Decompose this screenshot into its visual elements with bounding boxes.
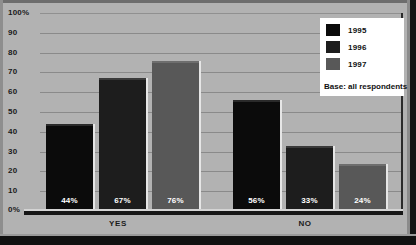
frame-top-border	[0, 0, 416, 3]
bar-yes-1997: 76%	[152, 61, 199, 212]
legend-swatch-1995	[326, 24, 340, 36]
legend-label-1995: 1995	[348, 26, 367, 35]
bar-cap	[233, 100, 280, 102]
bar-value-label: 76%	[152, 196, 199, 205]
category-label-yes: YES	[58, 219, 178, 228]
bar-right-highlight	[93, 124, 95, 211]
bar-value-label: 56%	[233, 196, 280, 205]
bar-cap	[286, 146, 333, 148]
bar-right-highlight	[280, 100, 282, 211]
frame-bottom-border	[0, 236, 416, 245]
category-label-no: NO	[245, 219, 365, 228]
legend-base-note: Base: all respondents	[324, 82, 407, 91]
bar-value-label: 67%	[99, 196, 146, 205]
y-tick-10: 10	[8, 187, 40, 195]
bar-value-label: 24%	[339, 196, 386, 205]
bar-right-highlight	[146, 78, 148, 211]
y-tick-30: 30	[8, 148, 40, 156]
y-tick-80: 80	[8, 49, 40, 57]
chart-screenshot: 44% 67% 76% 56% 33% 24%	[0, 0, 416, 245]
bar-right-highlight	[333, 146, 335, 211]
bar-yes-1995: 44%	[46, 124, 93, 211]
legend: 1995 1996 1997 Base: all respondents	[320, 18, 404, 96]
legend-swatch-1996	[326, 41, 340, 53]
legend-label-1996: 1996	[348, 43, 367, 52]
y-tick-40: 40	[8, 128, 40, 136]
bar-no-1997: 24%	[339, 164, 386, 212]
frame-right-border	[410, 0, 416, 245]
bar-cap	[46, 124, 93, 126]
bar-cap	[339, 164, 386, 166]
bar-right-highlight	[386, 164, 388, 212]
y-tick-90: 90	[8, 29, 40, 37]
legend-swatch-1997	[326, 58, 340, 70]
legend-label-1997: 1997	[348, 60, 367, 69]
bar-no-1996: 33%	[286, 146, 333, 211]
y-tick-60: 60	[8, 88, 40, 96]
y-tick-20: 20	[8, 167, 40, 175]
y-tick-50: 50	[8, 108, 40, 116]
gridline-50	[40, 112, 402, 113]
bar-no-1995: 56%	[233, 100, 280, 211]
bar-cap	[152, 61, 199, 63]
bar-cap	[99, 78, 146, 80]
bar-yes-1996: 67%	[99, 78, 146, 211]
bar-right-highlight	[199, 61, 201, 212]
y-tick-70: 70	[8, 68, 40, 76]
x-axis-categories: YES NO	[3, 215, 410, 234]
gridline-100	[40, 13, 402, 14]
bar-value-label: 44%	[46, 196, 93, 205]
bar-value-label: 33%	[286, 196, 333, 205]
y-tick-100: 100%	[8, 9, 40, 17]
